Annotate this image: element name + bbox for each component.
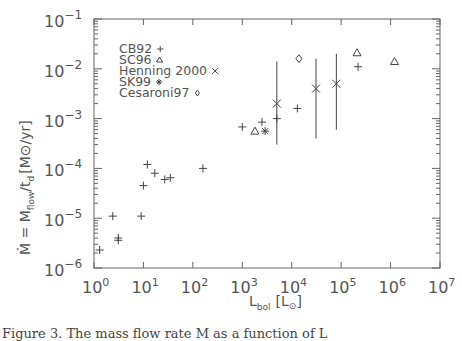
x-tick-label: 102 bbox=[181, 276, 208, 297]
x-tick-label: 100 bbox=[82, 276, 109, 297]
series-sk99 bbox=[261, 127, 269, 135]
x-tick-label: 107 bbox=[428, 276, 455, 297]
x-tick-label: 101 bbox=[131, 276, 158, 297]
y-tick-label: 10−1 bbox=[44, 8, 82, 31]
series-cesaroni97 bbox=[296, 55, 302, 63]
y-tick-labels: 10−110−210−310−410−510−6 bbox=[44, 8, 82, 280]
figure-caption: Figure 3. The mass flow rate M as a func… bbox=[2, 326, 327, 341]
x-tick-label: 106 bbox=[379, 276, 406, 297]
x-tick-labels: 100101102103104105106107 bbox=[82, 276, 455, 297]
y-tick-label: 10−4 bbox=[44, 157, 82, 180]
series-sc96 bbox=[251, 49, 399, 134]
x-tick-label: 105 bbox=[329, 276, 356, 297]
legend: CB92SC96Henning 2000SK99Cesaroni97 bbox=[119, 41, 218, 100]
y-tick-label: 10−2 bbox=[44, 58, 82, 81]
y-tick-label: 10−5 bbox=[44, 207, 82, 230]
y-axis-title: Ṁ = Mflow/td[M⊙/yr] bbox=[16, 120, 36, 255]
series-henning-2000 bbox=[273, 54, 341, 145]
legend-entry: Cesaroni97 bbox=[119, 85, 189, 100]
y-tick-label: 10−3 bbox=[44, 108, 82, 131]
y-tick-label: 10−6 bbox=[44, 257, 82, 280]
